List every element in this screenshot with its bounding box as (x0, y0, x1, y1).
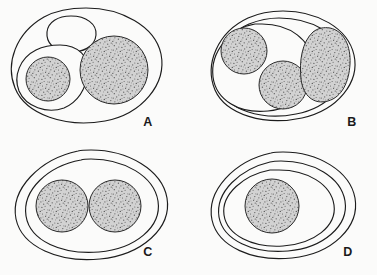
panel-d-central-sphere (245, 179, 299, 233)
panel-b-upper-left-sphere (221, 28, 267, 74)
panel-c-label: C (143, 245, 152, 259)
figure-plate: A B C (0, 0, 377, 275)
panel-b-label: B (347, 115, 356, 129)
panel-c-left-sphere (36, 180, 88, 232)
panel-c-right-sphere (89, 180, 141, 232)
panel-d-label: D (343, 245, 352, 259)
panel-a-large-sphere (80, 36, 148, 104)
figure-canvas: A B C (0, 0, 377, 275)
panel-b-lower-mid-sphere (259, 61, 307, 109)
panel-a-small-sphere (26, 57, 70, 101)
panel-a-label: A (143, 115, 152, 129)
